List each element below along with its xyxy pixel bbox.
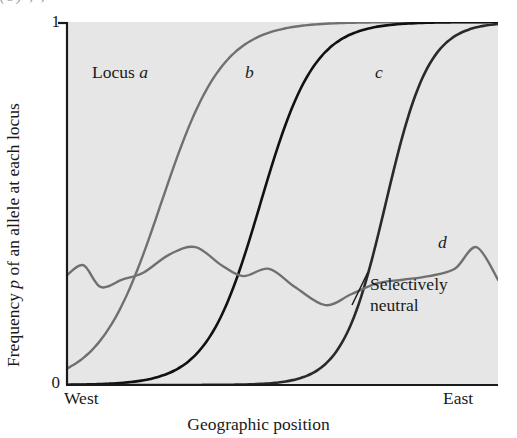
x-axis-start-label: West bbox=[64, 388, 99, 409]
locus-prefix: Locus bbox=[92, 62, 139, 82]
locus-a-letter: a bbox=[139, 62, 148, 82]
selectively-neutral-label: Selectively neutral bbox=[370, 274, 448, 316]
selectively-neutral-line2: neutral bbox=[370, 295, 448, 316]
locus-c-letter: c bbox=[375, 62, 383, 82]
locus-b-letter: b bbox=[245, 62, 254, 82]
selectively-neutral-line1: Selectively bbox=[370, 274, 448, 295]
clinal-variation-figure: (b) , , Frequency p of an allele at each… bbox=[0, 0, 517, 438]
curve-label-locus-b: b bbox=[245, 62, 254, 83]
curve-label-locus-d: d bbox=[438, 232, 447, 253]
locus-d-letter: d bbox=[438, 232, 447, 252]
x-axis-title: Geographic position bbox=[0, 414, 517, 435]
curve-label-locus-a: Locus a bbox=[92, 62, 148, 83]
x-axis-end-label: East bbox=[443, 388, 473, 409]
plot-canvas bbox=[0, 0, 517, 438]
curve-label-locus-c: c bbox=[375, 62, 383, 83]
